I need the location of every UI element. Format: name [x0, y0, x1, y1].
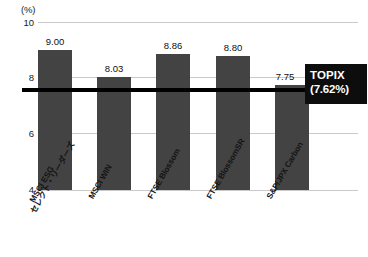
topix-value: (7.62%) [310, 82, 367, 96]
plot-area: 9.00 8.03 8.86 8.80 7.75 TOPIX (7.62%) [0, 0, 368, 257]
bar-value-msci-esg: 9.00 [33, 36, 77, 47]
topix-callout: TOPIX (7.62%) [305, 64, 367, 104]
bar-chart: (%) 10 8 6 4 9.00 8.03 8.86 8.80 7.75 TO… [0, 0, 368, 257]
bar-value-ftse-blossom-sr: 8.80 [211, 42, 255, 53]
bar-value-ftse-blossom: 8.86 [151, 40, 195, 51]
topix-label: TOPIX [310, 68, 367, 82]
bar-value-msci-win: 8.03 [92, 63, 136, 74]
bar-value-sp-jpx-carbon: 7.75 [263, 71, 307, 82]
